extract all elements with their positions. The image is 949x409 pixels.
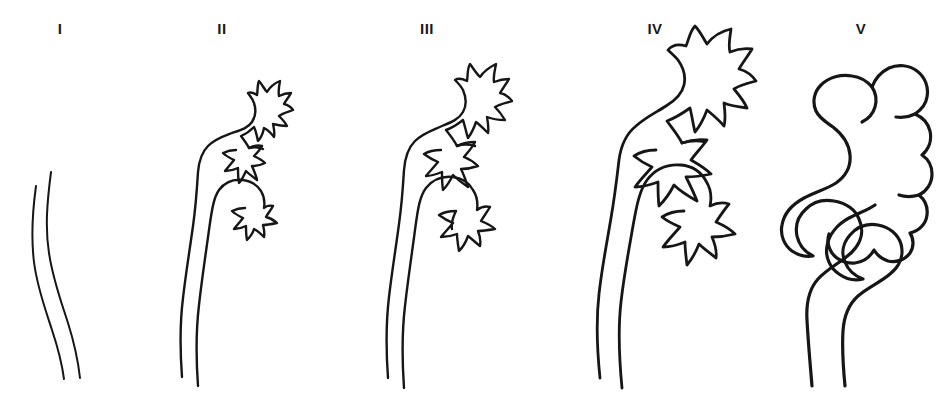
panel-grade-3-drawing (387, 64, 512, 388)
mid-calyx-grade-3 (457, 145, 475, 147)
mid-calyx-notch-grade-5 (896, 114, 915, 117)
grade-label-3: III (420, 21, 434, 36)
ureter-right-wall-grade-1 (47, 172, 80, 378)
mid-calyx-grade-4 (682, 141, 705, 143)
anatomy-drawing-canvas (0, 0, 949, 409)
panel-grade-5-drawing (781, 66, 932, 386)
upper-calyx-inner-contour-grade-5 (862, 87, 876, 122)
grade-label-1: I (58, 21, 63, 36)
collecting-system-outline-grade-4 (597, 26, 756, 378)
collecting-system-inner-wall-grade-5 (827, 205, 902, 386)
collecting-system-inner-wall-grade-4 (619, 165, 735, 388)
collecting-system-outline-grade-5 (781, 66, 932, 386)
collecting-system-inner-wall-grade-2 (197, 180, 277, 386)
grade-label-4: IV (647, 21, 662, 36)
mid-calyx-grade-2 (249, 147, 263, 149)
panel-grade-4-drawing (597, 26, 756, 388)
grade-label-5: V (856, 21, 867, 36)
lower-calyx-notch-grade-5 (899, 195, 919, 197)
panel-grade-2-drawing (181, 81, 293, 386)
ureter-left-wall-grade-1 (32, 186, 64, 379)
collecting-system-inner-wall-grade-3 (403, 177, 495, 388)
vur-grading-figure: I II III IV V (0, 0, 949, 409)
grade-label-2: II (217, 21, 226, 36)
panel-grade-1-drawing (32, 172, 80, 379)
